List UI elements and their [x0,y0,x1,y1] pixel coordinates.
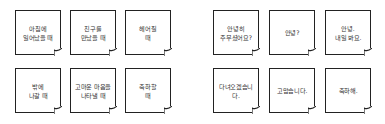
note-text: 아침에 일어났을 때 [20,24,56,42]
sticky-note: 고맙습니다. [269,68,315,113]
note-text: 안녕? [282,28,302,37]
page-curl-icon [54,48,62,56]
page-curl-icon [364,106,372,114]
note-text: 헤어질 때 [136,24,159,42]
sticky-note: 친구를 만났을 때 [70,10,116,55]
page-curl-icon [364,48,372,56]
note-text: 축하해. [336,86,361,95]
page-curl-icon [252,106,260,114]
sticky-note: 아침에 일어났을 때 [15,10,61,55]
sticky-note: 다녀오겠습니다. [213,68,259,113]
page-curl-icon [252,48,260,56]
note-text: 밖에 나갈 때 [26,82,51,100]
page-curl-icon [164,106,172,114]
note-text: 다녀오겠습니다. [214,82,258,100]
page-curl-icon [54,106,62,114]
sticky-note: 축하해. [325,68,371,113]
sticky-note: 안녕. 내일 봐요. [325,10,371,55]
sticky-note: 안녕? [269,10,315,55]
page-curl-icon [308,106,316,114]
note-text: 안녕히 주무셨어요? [217,24,254,42]
sticky-note: 안녕히 주무셨어요? [213,10,259,55]
sticky-note: 축하할 때 [125,68,171,113]
note-text: 고마운 마음을 나타낼 때 [72,82,114,100]
page-curl-icon [109,106,117,114]
sticky-note: 헤어질 때 [125,10,171,55]
note-text: 고맙습니다. [274,86,310,95]
note-text: 안녕. 내일 봐요. [332,24,364,42]
page-curl-icon [109,48,117,56]
page-curl-icon [308,48,316,56]
note-text: 축하할 때 [136,82,159,100]
sticky-note: 밖에 나갈 때 [15,68,61,113]
sticky-note: 고마운 마음을 나타낼 때 [70,68,116,113]
page-curl-icon [164,48,172,56]
note-text: 친구를 만났을 때 [78,24,108,42]
